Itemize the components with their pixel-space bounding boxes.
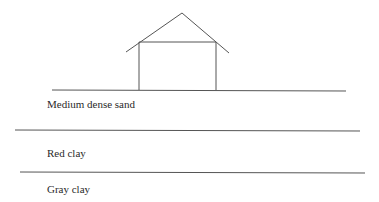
sand-redclay-boundary-line bbox=[15, 130, 360, 131]
layer-label-medium-dense-sand: Medium dense sand bbox=[47, 98, 135, 111]
redclay-grayclay-boundary-line bbox=[20, 172, 365, 173]
layer-label-gray-clay: Gray clay bbox=[47, 183, 90, 196]
ground-surface-line bbox=[52, 90, 346, 91]
layer-label-red-clay: Red clay bbox=[47, 147, 86, 160]
house-roof bbox=[126, 13, 229, 53]
soil-profile-diagram: Medium dense sand Red clay Gray clay bbox=[0, 0, 379, 202]
